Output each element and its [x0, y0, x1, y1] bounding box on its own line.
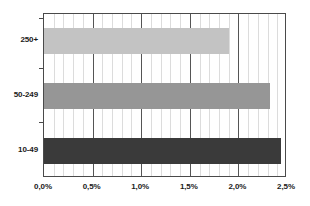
plot-area	[43, 13, 286, 177]
bar-10-49	[44, 138, 281, 164]
x-axis-label-0: 0,0%	[34, 182, 52, 191]
x-axis-label-2: 1,0%	[131, 182, 149, 191]
y-axis-tick	[39, 18, 43, 19]
x-axis-label-1: 0,5%	[83, 182, 101, 191]
bar-250	[44, 28, 229, 54]
bar-50-249	[44, 83, 270, 109]
y-axis-label-50-249: 50-249	[14, 90, 38, 99]
y-axis-tick	[39, 122, 43, 123]
y-axis-label-10-49: 10-49	[18, 145, 38, 154]
y-axis-tick	[39, 68, 43, 69]
bar-chart: 250+50-24910-490,0%0,5%1,0%1,5%2,0%2,5%	[0, 0, 310, 206]
y-axis-label-250: 250+	[20, 35, 38, 44]
x-axis-label-4: 2,0%	[228, 182, 246, 191]
x-axis-label-3: 1,5%	[180, 182, 198, 191]
x-axis-label-5: 2,5%	[277, 182, 295, 191]
